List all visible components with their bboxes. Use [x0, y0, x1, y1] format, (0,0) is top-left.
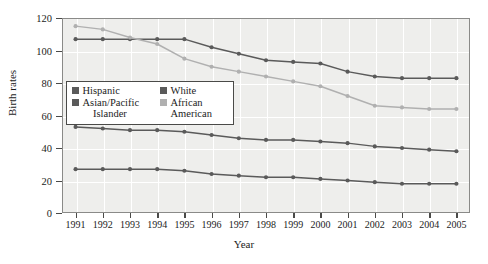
data-point [264, 175, 268, 179]
data-point [237, 136, 241, 140]
data-point [182, 169, 186, 173]
data-point [74, 24, 78, 28]
y-tick-label: 20 [42, 175, 53, 186]
x-tick-label: 2001 [338, 219, 358, 230]
data-point [182, 130, 186, 134]
series-hispanic [74, 37, 459, 80]
data-point [346, 141, 350, 145]
data-point [237, 52, 241, 56]
data-point [264, 138, 268, 142]
data-point [454, 107, 458, 111]
data-point [454, 182, 458, 186]
data-point [373, 104, 377, 108]
legend: Hispanic White Asian/Pacific Islander Af… [66, 81, 234, 125]
x-tick-label: 1991 [66, 219, 86, 230]
legend-row: Asian/Pacific Islander African American [72, 97, 228, 120]
legend-swatch-asian-pacific-islander [72, 99, 79, 106]
x-tick-mark [157, 213, 158, 218]
series-white [74, 125, 459, 154]
data-point [210, 45, 214, 49]
y-tick-label: 100 [36, 45, 52, 56]
x-tick-label: 2000 [310, 219, 330, 230]
legend-item-hispanic: Hispanic [72, 85, 160, 97]
x-tick-label: 1992 [93, 219, 113, 230]
series-asian-pacific-islander [74, 167, 459, 186]
x-tick-mark [293, 213, 294, 218]
data-point [74, 167, 78, 171]
x-axis-title: Year [0, 238, 488, 250]
y-tick-label: 120 [36, 13, 52, 24]
legend-item-white: White [160, 85, 228, 97]
legend-label-african-american: African American [171, 97, 212, 120]
data-point [427, 182, 431, 186]
data-point [101, 167, 105, 171]
data-point [74, 125, 78, 129]
data-point [101, 37, 105, 41]
data-point [346, 178, 350, 182]
data-point [427, 148, 431, 152]
data-point [128, 35, 132, 39]
data-point [210, 133, 214, 137]
data-point [318, 61, 322, 65]
data-point [373, 74, 377, 78]
data-point [101, 27, 105, 31]
data-point [101, 126, 105, 130]
data-point [155, 42, 159, 46]
chart-figure: 020406080100120 199119921993199419951996… [0, 0, 488, 264]
data-point [264, 74, 268, 78]
legend-swatch-hispanic [72, 87, 79, 94]
data-point [346, 70, 350, 74]
data-point [291, 138, 295, 142]
x-tick-mark [320, 213, 321, 218]
x-tick-mark [130, 213, 131, 218]
x-tick-label: 1994 [147, 219, 167, 230]
data-point [373, 144, 377, 148]
data-point [74, 37, 78, 41]
x-tick-mark [212, 213, 213, 218]
x-tick-mark [348, 213, 349, 218]
data-point [400, 76, 404, 80]
legend-swatch-african-american [160, 99, 167, 106]
data-point [400, 182, 404, 186]
x-tick-mark [184, 213, 185, 218]
x-tick-mark [456, 213, 457, 218]
x-tick-label: 2004 [419, 219, 439, 230]
data-point [400, 146, 404, 150]
x-tick-mark [239, 213, 240, 218]
y-tick-mark [56, 213, 62, 214]
x-tick-label: 1998 [256, 219, 276, 230]
x-tick-label: 1997 [229, 219, 249, 230]
x-tick-mark [76, 213, 77, 218]
data-point [155, 37, 159, 41]
legend-item-african-american: African American [160, 97, 228, 120]
x-tick-mark [402, 213, 403, 218]
data-point [346, 94, 350, 98]
data-point [155, 167, 159, 171]
data-point [373, 180, 377, 184]
x-tick-label: 1996 [202, 219, 222, 230]
data-point [454, 76, 458, 80]
x-tick-mark [375, 213, 376, 218]
legend-row: Hispanic White [72, 85, 228, 97]
data-point [182, 57, 186, 61]
data-point [291, 79, 295, 83]
data-point [427, 107, 431, 111]
x-tick-label: 2005 [446, 219, 466, 230]
x-tick-mark [266, 213, 267, 218]
y-tick-label: 40 [42, 143, 53, 154]
y-axis-title: Birth rates [6, 70, 18, 116]
data-point [291, 175, 295, 179]
x-tick-label: 1993 [120, 219, 140, 230]
data-point [182, 37, 186, 41]
data-point [291, 60, 295, 64]
data-point [237, 174, 241, 178]
data-point [155, 128, 159, 132]
y-tick-label: 60 [42, 110, 53, 121]
data-point [400, 105, 404, 109]
data-point [264, 58, 268, 62]
x-tick-mark [429, 213, 430, 218]
x-tick-label: 1999 [283, 219, 303, 230]
x-tick-label: 2002 [365, 219, 385, 230]
y-tick-label: 80 [42, 78, 53, 89]
legend-label-hispanic: Hispanic [83, 85, 120, 97]
